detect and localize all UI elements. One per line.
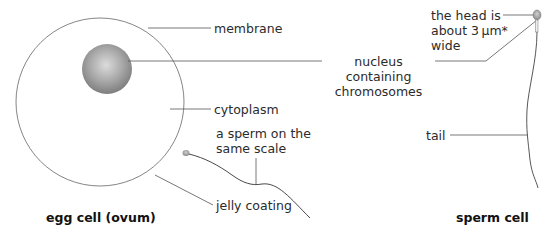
label-head-line1: the head is	[431, 8, 508, 23]
sperm-tail	[527, 32, 538, 188]
label-jelly-coating: jelly coating	[216, 198, 292, 213]
label-cytoplasm: cytoplasm	[214, 102, 279, 117]
label-membrane: membrane	[214, 21, 282, 36]
label-nucleus-line1: nucleus	[322, 54, 435, 69]
egg-cell-title: egg cell (ovum)	[46, 210, 156, 225]
small-sperm-head	[183, 150, 190, 156]
label-nucleus-line2: containing	[322, 69, 435, 84]
sperm-head	[533, 10, 541, 20]
label-sperm-head: the head is about 3 µm* wide	[431, 8, 508, 53]
label-nucleus-line3: chromosomes	[322, 84, 435, 99]
label-head-line2: about 3 µm*	[431, 23, 508, 38]
label-head-line3: wide	[431, 38, 508, 53]
sperm-cell-title: sperm cell	[456, 210, 529, 225]
cell-diagram: membrane nucleus containing chromosomes …	[0, 0, 554, 245]
label-nucleus: nucleus containing chromosomes	[322, 54, 435, 99]
egg-nucleus	[82, 44, 132, 94]
label-sperm-scale-line2: same scale	[216, 141, 311, 156]
jelly-leader	[155, 175, 213, 205]
sperm-midpiece	[536, 20, 539, 32]
label-sperm-scale: a sperm on the same scale	[216, 126, 311, 156]
label-sperm-scale-line1: a sperm on the	[216, 126, 311, 141]
label-tail: tail	[426, 128, 446, 143]
egg-membrane-circle	[16, 18, 184, 186]
